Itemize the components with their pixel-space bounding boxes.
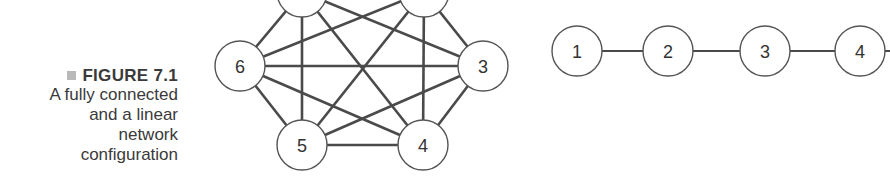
node-label: 5	[297, 136, 307, 156]
linear-node-1: 1	[552, 26, 602, 76]
node-label: 2	[419, 0, 429, 3]
fc-node-6: 6	[215, 41, 265, 91]
fc-node-4: 4	[398, 120, 448, 170]
fully-connected-edges	[240, 0, 483, 145]
node-label: 3	[478, 57, 488, 77]
linear-node-3: 3	[740, 26, 790, 76]
fc-node-5: 5	[277, 120, 327, 170]
fc-node-3: 3	[458, 41, 508, 91]
node-label: 4	[418, 136, 428, 156]
linear-node-4: 4	[835, 26, 885, 76]
network-diagram: 123456 1234	[0, 0, 890, 181]
node-label: 1	[572, 42, 582, 62]
node-label: 6	[235, 57, 245, 77]
node-label: 3	[760, 42, 770, 62]
node-label: 4	[855, 42, 865, 62]
node-label: 2	[663, 42, 673, 62]
linear-node-2: 2	[643, 26, 693, 76]
node-label: 1	[297, 0, 307, 3]
